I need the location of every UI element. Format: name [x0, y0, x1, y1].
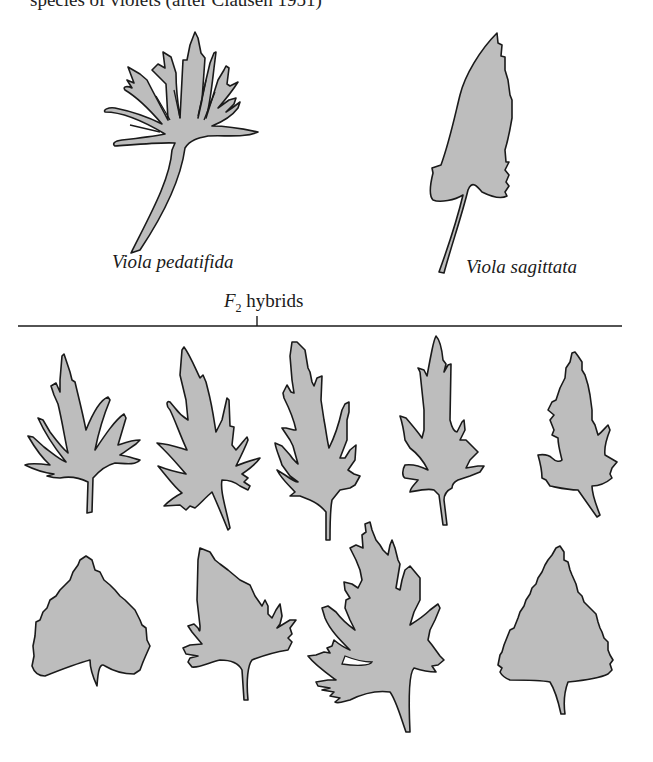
f2-prefix: F	[224, 290, 236, 311]
hybrid-leaf-r1-2	[157, 347, 260, 530]
label-viola-pedatifida: Viola pedatifida	[112, 251, 234, 273]
leaf-figure	[0, 0, 653, 762]
leaf-viola-pedatifida	[105, 32, 258, 253]
hybrid-leaf-r1-3	[275, 342, 360, 540]
hybrid-leaf-r1-1	[25, 354, 140, 513]
hybrid-leaf-r2-3	[308, 522, 444, 732]
hybrid-leaf-r2-1	[32, 556, 150, 686]
hybrid-leaf-r1-4	[400, 336, 484, 525]
hybrid-leaf-r2-4	[498, 546, 613, 714]
f2-hybrids-label: F2 hybrids	[224, 290, 303, 316]
f2-suffix: hybrids	[242, 290, 304, 311]
hybrid-leaf-r2-2	[183, 548, 296, 700]
hybrid-leaf-r1-5	[538, 352, 617, 517]
hybrids-bracket	[18, 316, 622, 326]
label-viola-sagittata: Viola sagittata	[466, 256, 577, 278]
leaf-viola-sagittata	[430, 33, 512, 273]
